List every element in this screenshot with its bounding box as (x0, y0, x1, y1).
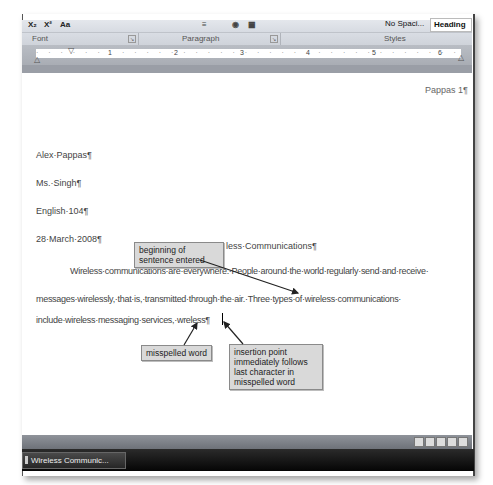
horizontal-ruler[interactable]: · · · · · · · · · · · · · · · · · · · · … (36, 49, 461, 58)
ribbon-group-labels: Font ↘ Paragraph ↘ Styles (22, 32, 472, 46)
ruler-number: 6 (438, 49, 442, 56)
font-group-label: Font (32, 34, 48, 43)
ruler-number: 4 (306, 49, 310, 56)
first-line-indent-marker-icon[interactable]: ▽ (68, 46, 74, 55)
doc-line-date: 28·March·2008¶ (36, 234, 102, 244)
view-buttons (414, 437, 468, 447)
draft-view-icon[interactable] (458, 437, 468, 447)
web-layout-view-icon[interactable] (436, 437, 446, 447)
ribbon: X₂ X² Aa ≡ ◉ ▦ No Spaci... Heading 1 (22, 20, 472, 32)
paragraph-group-label: Paragraph (182, 34, 219, 43)
bullets-button[interactable]: ≡ (202, 20, 207, 29)
style-heading-1[interactable]: Heading 1 (430, 18, 472, 32)
superscript-button[interactable]: X² (44, 20, 52, 29)
borders-button[interactable]: ▦ (248, 20, 256, 29)
outline-view-icon[interactable] (447, 437, 457, 447)
doc-body-line-1: Wireless·communications·are·everywhere.·… (70, 266, 428, 276)
left-indent-marker-icon[interactable]: △ (34, 55, 40, 64)
callout-misspelled-word: misspelled word (141, 345, 212, 361)
subscript-button[interactable]: X₂ (28, 20, 37, 29)
taskbar: Wireless Communic... (22, 449, 474, 471)
ruler-number: 5 (372, 49, 376, 56)
doc-line-teacher: Ms.·Singh¶ (36, 178, 81, 188)
ruler-number: 2 (174, 49, 178, 56)
ruler-area: · · · · · · · · · · · · · · · · · · · · … (22, 45, 472, 65)
font-dialog-launcher-icon[interactable]: ↘ (128, 35, 136, 43)
print-layout-view-icon[interactable] (414, 437, 424, 447)
ruler-ticks: · · · · · · · · · · · · · · · · · · · · … (36, 49, 461, 56)
taskbar-button-label: Wireless Communic... (31, 456, 109, 465)
word-document-icon (25, 456, 28, 464)
doc-body-line-3: include·wireless·messaging·services,·wre… (36, 315, 210, 325)
insertion-point-cursor (222, 313, 223, 325)
ruler-number: 1 (108, 49, 112, 56)
shading-button[interactable]: ◉ (232, 20, 239, 29)
doc-title: less·Communications¶ (226, 241, 317, 251)
full-screen-reading-view-icon[interactable] (425, 437, 435, 447)
status-bar (22, 435, 472, 449)
style-no-spacing[interactable]: No Spaci... (382, 18, 427, 30)
doc-line-course: English·104¶ (36, 206, 88, 216)
right-indent-marker-icon[interactable]: △ (458, 53, 464, 62)
callout-beginning-of-sentence: beginning of sentence entered (134, 242, 224, 268)
callout-insertion-point: insertion point immediately follows last… (229, 344, 323, 390)
change-case-button[interactable]: Aa (60, 20, 70, 29)
ruler-number: 3 (240, 49, 244, 56)
page-top-margin (22, 65, 472, 73)
group-separator (138, 33, 139, 45)
page-header: Pappas 1¶ (425, 85, 468, 95)
doc-line-name: Alex·Pappas¶ (36, 150, 92, 160)
styles-group-label: Styles (384, 34, 406, 43)
group-separator (280, 33, 281, 45)
doc-body-line-2: messages·wirelessly,·that·is,·transmitte… (36, 294, 401, 304)
paragraph-dialog-launcher-icon[interactable]: ↘ (270, 35, 278, 43)
taskbar-button-document[interactable]: Wireless Communic... (22, 452, 126, 469)
